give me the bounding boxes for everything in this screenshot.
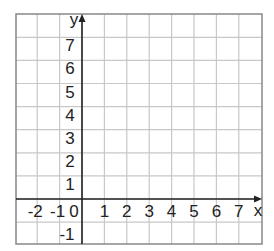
- x-tick-label: 4: [167, 203, 176, 220]
- y-tick-label: -1: [59, 226, 74, 243]
- y-tick-label: 7: [65, 37, 74, 54]
- y-tick-label: 2: [65, 152, 74, 169]
- x-tick-label: 3: [144, 203, 153, 220]
- x-tick-label: 6: [212, 203, 221, 220]
- origin-label: 0: [69, 203, 78, 220]
- x-axis-label: x: [254, 202, 263, 219]
- y-tick-label: 4: [65, 106, 74, 123]
- x-tick-label: 2: [122, 203, 131, 220]
- y-tick-label: 6: [65, 60, 74, 77]
- y-tick-label: 3: [65, 129, 74, 146]
- y-axis-label: y: [70, 11, 79, 28]
- x-tick-label: 7: [234, 203, 243, 220]
- x-tick-label: 1: [100, 203, 109, 220]
- x-tick-label: -2: [28, 203, 43, 220]
- x-tick-label: -1: [50, 203, 65, 220]
- y-tick-label: 1: [65, 175, 74, 192]
- x-tick-label: 5: [189, 203, 198, 220]
- y-axis-arrow-icon: [79, 14, 86, 22]
- y-tick-label: 5: [65, 83, 74, 100]
